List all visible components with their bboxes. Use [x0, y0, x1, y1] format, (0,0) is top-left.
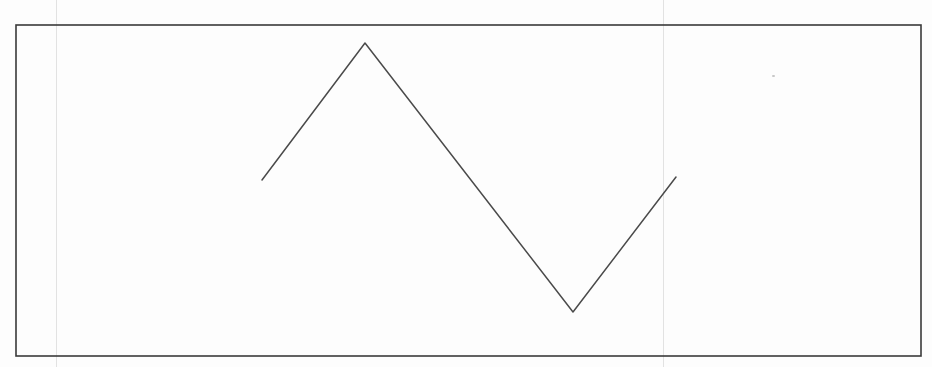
- zigzag-line: [262, 43, 676, 312]
- worksheet-page: [0, 0, 932, 367]
- zigzag-diagram: [0, 0, 932, 367]
- frame-rectangle: [16, 25, 921, 356]
